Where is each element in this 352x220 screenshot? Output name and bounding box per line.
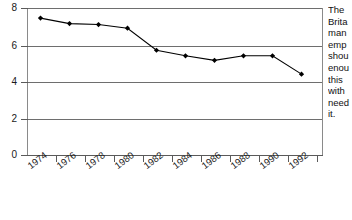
data-point-1984 (183, 53, 188, 58)
data-point-1974 (38, 16, 43, 21)
side-note-text: The Brita man emp shou enou this with ne… (328, 4, 352, 120)
line-series (0, 0, 352, 220)
note-line: it. (328, 108, 352, 120)
note-line: man (328, 27, 352, 39)
note-line: enou (328, 62, 352, 74)
note-line: The (328, 4, 352, 16)
chart-screenshot: 8 6 4 2 0 1974 1976 1978 1980 1982 1984 … (0, 0, 352, 220)
note-line: shou (328, 50, 352, 62)
note-line: need (328, 97, 352, 109)
note-line: emp (328, 39, 352, 51)
data-point-1988 (241, 53, 246, 58)
data-point-1990 (270, 53, 275, 58)
note-line: with (328, 85, 352, 97)
data-point-1986 (212, 58, 217, 63)
note-line: Brita (328, 16, 352, 28)
note-line: this (328, 74, 352, 86)
data-point-1992 (299, 72, 304, 77)
data-point-1976 (67, 21, 72, 26)
data-point-1978 (96, 22, 101, 27)
